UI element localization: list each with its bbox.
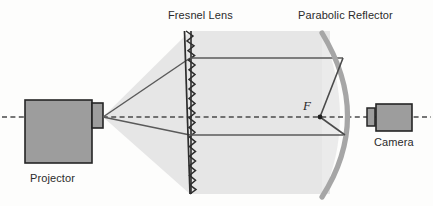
label-focal-point: F (303, 100, 311, 112)
label-parabolic-reflector: Parabolic Reflector (298, 9, 393, 21)
camera-lens-barrel (367, 108, 375, 126)
camera-group (367, 104, 412, 131)
projector-group (25, 100, 103, 163)
label-projector: Projector (30, 172, 75, 184)
label-fresnel-lens: Fresnel Lens (168, 9, 233, 21)
camera-body (376, 104, 412, 131)
label-camera: Camera (374, 136, 414, 148)
beam-shading-group (103, 31, 340, 197)
projector-lens-barrel (92, 103, 103, 128)
diagram-canvas: Fresnel Lens Parabolic Reflector Project… (0, 0, 433, 206)
projector-body (25, 100, 92, 163)
focal-point-marker (318, 115, 323, 120)
projector-beam-cone (103, 31, 190, 194)
